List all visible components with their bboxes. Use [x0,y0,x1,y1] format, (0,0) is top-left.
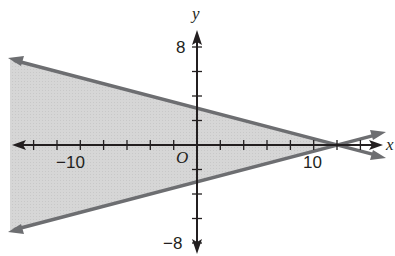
y-axis-label: y [190,4,200,23]
y-tick-label-neg8: −8 [163,234,182,253]
x-axis-label: x [385,135,394,154]
x-tick-label-10: 10 [303,153,322,172]
x-tick-label-neg10: −10 [56,153,85,172]
y-tick-label-8: 8 [176,38,185,57]
arrow-lower-right-icon [370,130,386,140]
origin-label: O [176,148,188,167]
graph: y x O −10 10 8 −8 [0,0,395,256]
arrow-upper-right-icon [370,150,386,160]
